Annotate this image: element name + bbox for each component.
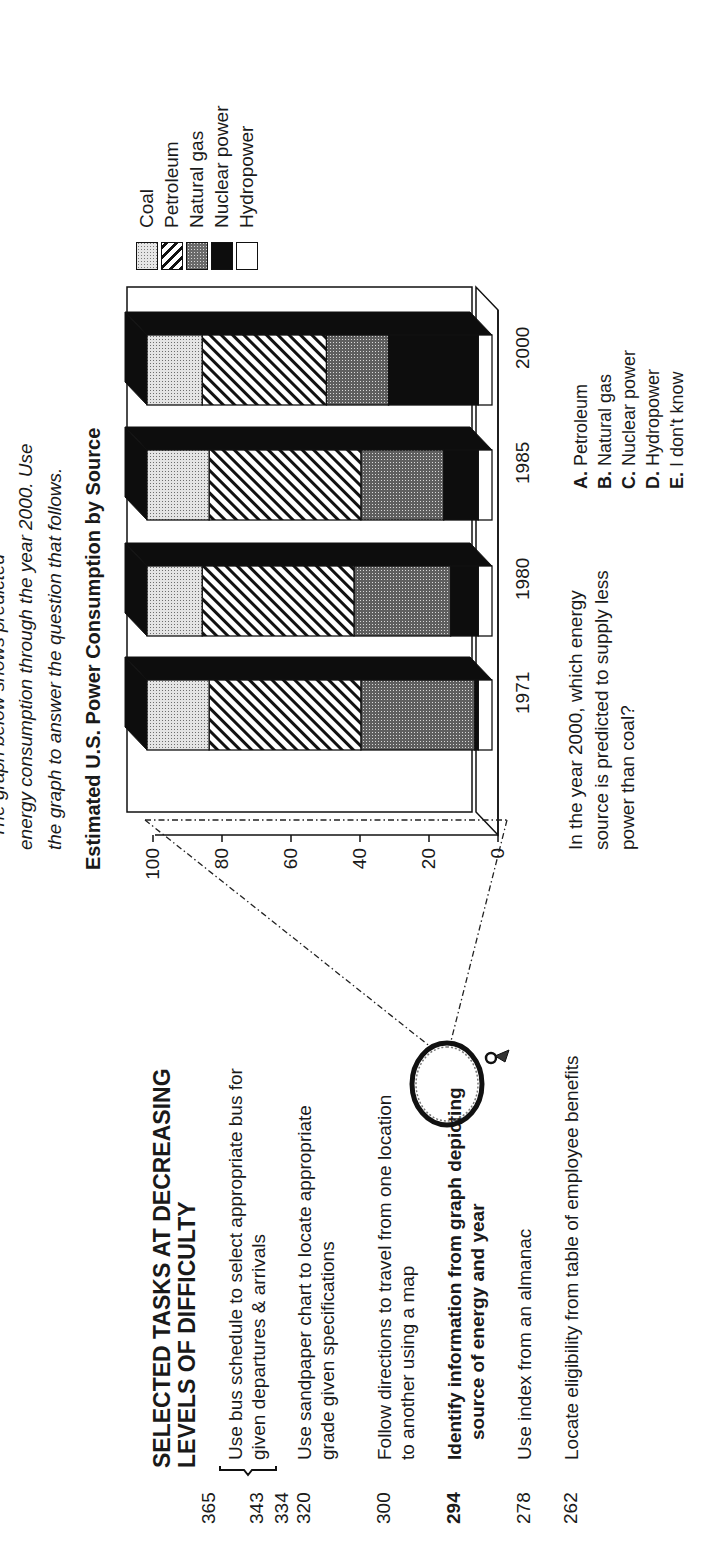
magnifying-glass-icon (395, 1024, 515, 1134)
page: The graph below shows predicted energy c… (0, 0, 710, 1564)
callout-lines (0, 0, 710, 1564)
